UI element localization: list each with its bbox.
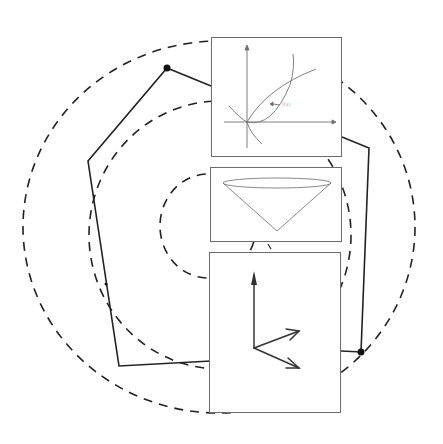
curve-annotation: f(x) xyxy=(282,102,291,107)
curves-panel: f(x) xyxy=(211,37,342,157)
cone-drawing xyxy=(211,168,343,243)
vertex-marker-bottom xyxy=(358,349,365,356)
cone-panel xyxy=(210,167,342,242)
vector-lower-right xyxy=(254,348,299,368)
inner-tick-mark xyxy=(268,244,271,249)
curve-parabola xyxy=(229,106,262,144)
x-axis-arrow-icon xyxy=(332,120,336,124)
vertex-marker-small xyxy=(105,283,108,286)
y-axis-arrow-icon xyxy=(245,45,249,50)
vector-upper-right xyxy=(254,331,299,348)
polygon-right-edges xyxy=(341,137,369,352)
vectors-panel xyxy=(209,252,341,413)
vertex-marker-top xyxy=(164,65,171,72)
annotation-arrowhead-icon xyxy=(270,102,273,106)
curve-upward xyxy=(247,69,316,122)
vector-triad xyxy=(210,253,342,414)
cone-sides xyxy=(223,183,331,231)
cone-rim xyxy=(223,178,331,188)
polygon-left-edges xyxy=(88,68,211,366)
annotation-arrow xyxy=(273,104,280,105)
curves-plot xyxy=(212,38,343,158)
arrowhead-up-icon xyxy=(251,271,257,285)
